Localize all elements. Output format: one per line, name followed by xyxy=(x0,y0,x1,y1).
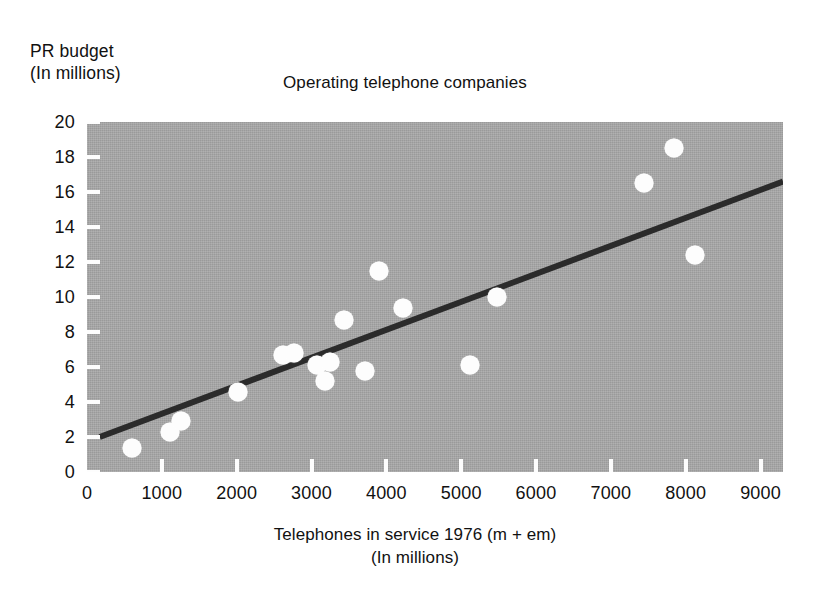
x-tick-mark xyxy=(235,459,239,472)
y-tick-label: 18 xyxy=(31,148,75,166)
y-tick-label: 4 xyxy=(31,393,75,411)
y-axis-label-line1: PR budget xyxy=(30,40,121,62)
y-tick-mark xyxy=(87,330,100,334)
data-point xyxy=(461,356,480,375)
x-tick-mark xyxy=(384,459,388,472)
y-tick-label: 0 xyxy=(31,463,75,481)
x-tick-mark xyxy=(684,459,688,472)
regression-trendline xyxy=(100,182,783,438)
x-tick-label: 5000 xyxy=(441,484,482,502)
y-tick-mark xyxy=(87,435,100,439)
x-tick-label: 8000 xyxy=(665,484,706,502)
data-point xyxy=(229,382,248,401)
data-point xyxy=(335,310,354,329)
x-tick-label: 1000 xyxy=(141,484,182,502)
data-point xyxy=(488,288,507,307)
data-point xyxy=(321,352,340,371)
x-tick-mark xyxy=(160,459,164,472)
y-tick-label: 12 xyxy=(31,253,75,271)
x-tick-mark xyxy=(310,459,314,472)
x-tick-label: 2000 xyxy=(216,484,257,502)
x-tick-label: 3000 xyxy=(291,484,332,502)
y-tick-mark xyxy=(87,470,100,472)
x-axis-label: Telephones in service 1976 (m + em) (In … xyxy=(0,524,830,570)
y-tick-label: 20 xyxy=(31,113,75,131)
y-tick-mark xyxy=(87,365,100,369)
y-tick-mark xyxy=(87,400,100,404)
plot-area xyxy=(87,122,783,472)
data-point xyxy=(356,361,375,380)
y-tick-mark xyxy=(87,122,100,124)
x-tick-label: 7000 xyxy=(590,484,631,502)
x-tick-mark xyxy=(609,459,613,472)
x-tick-label: 0 xyxy=(82,484,92,502)
data-point xyxy=(284,344,303,363)
y-tick-label: 14 xyxy=(31,218,75,236)
data-point xyxy=(393,298,412,317)
x-tick-label: 9000 xyxy=(740,484,781,502)
x-tick-label: 4000 xyxy=(366,484,407,502)
x-tick-mark xyxy=(534,459,538,472)
scatter-chart-figure: PR budget (In millions) Operating teleph… xyxy=(0,0,830,595)
data-point xyxy=(122,438,141,457)
trendline-svg xyxy=(87,122,783,472)
y-tick-mark xyxy=(87,225,100,229)
y-tick-label: 10 xyxy=(31,288,75,306)
x-axis-label-line2: (In millions) xyxy=(0,547,830,570)
y-tick-label: 16 xyxy=(31,183,75,201)
y-axis-label-line2: (In millions) xyxy=(30,62,121,84)
y-tick-label: 8 xyxy=(31,323,75,341)
chart-title: Operating telephone companies xyxy=(283,73,527,93)
y-tick-mark xyxy=(87,155,100,159)
y-tick-mark xyxy=(87,260,100,264)
data-point xyxy=(171,412,190,431)
data-point xyxy=(665,139,684,158)
y-tick-label: 2 xyxy=(31,428,75,446)
y-tick-mark xyxy=(87,190,100,194)
y-tick-label: 6 xyxy=(31,358,75,376)
x-tick-mark xyxy=(759,459,763,472)
data-point xyxy=(634,174,653,193)
y-tick-mark xyxy=(87,295,100,299)
data-point xyxy=(315,372,334,391)
data-point xyxy=(686,246,705,265)
data-point xyxy=(369,261,388,280)
y-axis-label: PR budget (In millions) xyxy=(30,40,121,84)
x-axis-label-line1: Telephones in service 1976 (m + em) xyxy=(0,524,830,547)
x-tick-label: 6000 xyxy=(516,484,557,502)
x-tick-mark xyxy=(459,459,463,472)
